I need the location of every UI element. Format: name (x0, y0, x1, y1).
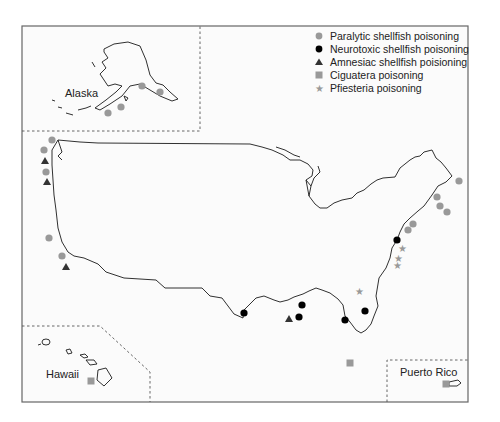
alaska-label: Alaska (65, 87, 99, 99)
puerto-rico-label: Puerto Rico (400, 366, 457, 378)
paralytic-marker (117, 103, 124, 110)
paralytic-marker (58, 252, 65, 259)
paralytic-marker (40, 146, 47, 153)
paralytic-marker (138, 82, 145, 89)
paralytic-marker (104, 109, 111, 116)
pfiesteria-marker: ★ (393, 260, 402, 271)
legend-label: Pfiesteria poisoning (330, 82, 422, 94)
hawaii-label: Hawaii (46, 368, 79, 380)
neurotoxic-marker (295, 313, 302, 320)
ciguatera-marker-icon (316, 72, 323, 79)
neurotoxic-marker (240, 309, 247, 316)
neurotoxic-marker (298, 301, 305, 308)
paralytic-marker (455, 177, 462, 184)
legend-label: Ciguatera poisoning (330, 69, 424, 81)
paralytic-marker (48, 136, 55, 143)
paralytic-marker (156, 88, 163, 95)
legend-label: Amnesiac shellfish poisioning (330, 56, 467, 68)
paralytic-marker (45, 234, 52, 241)
paralytic-marker (436, 202, 443, 209)
legend-item-neurotoxic: Neurotoxic shellfish poisoning (316, 43, 469, 55)
ciguatera-marker (443, 381, 450, 388)
ciguatera-marker (88, 378, 95, 385)
neurotoxic-marker (341, 316, 348, 323)
pfiesteria-marker-icon: ★ (315, 83, 324, 94)
paralytic-marker (409, 220, 416, 227)
paralytic-marker (404, 226, 411, 233)
paralytic-marker (433, 193, 440, 200)
paralytic-marker (443, 208, 450, 215)
paralytic-marker-icon (316, 33, 323, 40)
legend-item-amnesiac: Amnesiac shellfish poisioning (315, 56, 467, 68)
legend-item-ciguatera: Ciguatera poisoning (316, 69, 424, 81)
map-figure: Alaska Hawaii Puerto Rico ★★★★ Paralytic… (0, 0, 500, 422)
neurotoxic-marker (361, 307, 368, 314)
legend-item-paralytic: Paralytic shellfish poisoning (316, 30, 460, 42)
pfiesteria-marker: ★ (355, 286, 364, 297)
legend-item-pfiesteria: ★ Pfiesteria poisoning (315, 82, 422, 94)
neurotoxic-marker-icon (316, 46, 323, 53)
ciguatera-marker (347, 360, 354, 367)
paralytic-marker (42, 168, 49, 175)
legend-label: Neurotoxic shellfish poisoning (330, 43, 469, 55)
legend-label: Paralytic shellfish poisoning (330, 30, 459, 42)
